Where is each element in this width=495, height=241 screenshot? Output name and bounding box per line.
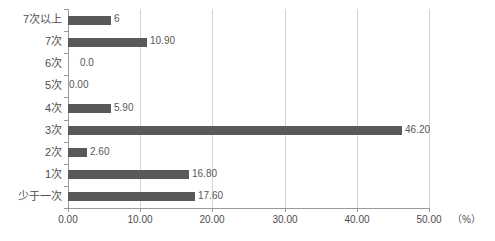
- y-axis-label-0: 7次以上: [0, 14, 62, 25]
- bar-value-label: 6: [114, 14, 120, 24]
- bar-value-label: 17.60: [198, 191, 223, 201]
- x-axis-tick-label: 10.00: [127, 215, 152, 225]
- x-axis-tick: [429, 208, 430, 212]
- plot-area: 610.900.00.005.9046.202.6016.8017.60: [68, 9, 429, 208]
- bar-value-label: 46.20: [405, 125, 430, 135]
- bar: [68, 104, 111, 113]
- bar: [68, 16, 111, 25]
- y-axis-label-3: 5次: [0, 80, 62, 91]
- bar-chart: 7次以上7次6次5次4次3次2次1次少于一次 610.900.00.005.90…: [0, 0, 495, 241]
- x-axis-tick: [285, 208, 286, 212]
- x-axis-tick: [68, 208, 69, 212]
- x-axis-tick-label: 40.00: [344, 215, 369, 225]
- gridline-50.00: [429, 9, 430, 208]
- x-axis-tick: [212, 208, 213, 212]
- bar-value-label: 0.0: [80, 58, 94, 68]
- bar: [68, 192, 195, 201]
- x-axis-tick-label: 0.00: [58, 215, 77, 225]
- bar: [68, 148, 87, 157]
- x-axis-tick-label: 50.00: [416, 215, 441, 225]
- bar-value-label: 2.60: [90, 147, 109, 157]
- bar-value-label: 0.00: [69, 80, 88, 90]
- y-axis-label-1: 7次: [0, 36, 62, 47]
- x-axis-tick-label: 30.00: [272, 215, 297, 225]
- bar: [68, 126, 402, 135]
- x-axis-unit-label: （%）: [452, 215, 481, 225]
- bar: [68, 38, 147, 47]
- x-axis-tick: [357, 208, 358, 212]
- bar: [68, 170, 189, 179]
- bar-value-label: 5.90: [114, 103, 133, 113]
- bar-value-label: 10.90: [150, 36, 175, 46]
- x-axis-line: [68, 208, 430, 209]
- y-axis-label-7: 1次: [0, 169, 62, 180]
- gridline-40.00: [357, 9, 358, 208]
- bar-value-label: 16.80: [192, 169, 217, 179]
- x-axis-tick-label: 20.00: [199, 215, 224, 225]
- y-axis-label-4: 4次: [0, 103, 62, 114]
- y-axis-label-6: 2次: [0, 147, 62, 158]
- x-axis-tick: [140, 208, 141, 212]
- y-axis-label-5: 3次: [0, 125, 62, 136]
- y-axis-label-8: 少于一次: [0, 191, 62, 202]
- gridline-30.00: [285, 9, 286, 208]
- y-axis-label-2: 6次: [0, 58, 62, 69]
